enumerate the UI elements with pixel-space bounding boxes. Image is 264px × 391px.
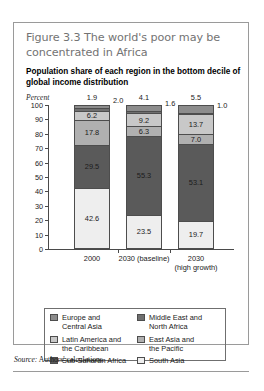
stacked-bar: 42.629.517.86.22.01.91.92.0 [74,105,110,249]
bar-segment: 5.5 [178,105,214,113]
bar-segment-value-label: 23.5 [137,228,151,235]
bar-top-value-label: 1.9 [87,93,97,102]
bar-top-value-label: 4.1 [139,93,149,102]
legend-item[interactable]: East Asia and the Pacific [137,335,225,353]
stacked-bar: 23.555.36.39.21.64.14.11.6 [126,105,162,249]
bar-segment: 9.2 [126,113,162,126]
legend-item-label: East Asia and the Pacific [149,335,194,353]
legend-item[interactable]: Middle East and North Africa [137,313,225,331]
bar-segment-value-label: 7.0 [191,136,201,143]
y-axis-tick-label: 30 [35,201,43,210]
source-text: Authors' calculations. [37,355,104,364]
bar-callout-value-label: 2.0 [113,96,123,105]
y-axis-tick-mark [45,163,49,164]
x-axis-tick-mark [118,249,119,253]
figure-title: Figure 3.3 The world's poor may be conce… [26,31,240,60]
legend-item[interactable]: Europe and Central Asia [50,313,138,331]
y-axis-tick-mark [45,119,49,120]
x-axis-category-label: 2030 (high growth) [156,254,236,273]
y-axis-tick-mark [45,134,49,135]
legend-item-label: Latin America and the Caribbean [62,335,121,353]
bar-segment: 7.0 [178,134,214,144]
y-axis-tick-label: 10 [35,230,43,239]
bar-segment: 1.6 [126,111,162,113]
bar-segment: 1.9 [74,105,110,108]
legend-color-swatch [137,336,145,343]
y-axis-tick-label: 80 [35,129,43,138]
bar-segment: 29.5 [74,145,110,187]
source-note: Source: Authors' calculations. [14,355,105,364]
bar-segment: 19.7 [178,221,214,249]
source-divider [13,371,249,372]
source-label: Source: [14,355,37,364]
y-axis-tick-label: 40 [35,187,43,196]
y-axis-tick-mark [45,191,49,192]
chart-axes: 1009080706050403020100 42.629.517.86.22.… [48,105,234,249]
bar-segment-value-label: 17.8 [85,129,99,136]
bar-segment-value-label: 19.7 [189,231,203,238]
bar-callout-value-label: 1.6 [165,99,175,108]
bar-top-value-label: 5.5 [191,93,201,102]
y-axis-tick-mark [45,148,49,149]
bar-segment-value-label: 9.2 [139,117,149,124]
bar-segment-value-label: 42.6 [85,215,99,222]
y-axis-tick-label: 60 [35,158,43,167]
legend-item-label: Middle East and North Africa [149,313,202,331]
y-axis-tick-mark [45,235,49,236]
x-axis-tick-mark [170,249,171,253]
y-axis-tick-label: 20 [35,216,43,225]
bar-segment: 6.3 [126,126,162,135]
bar-segment: 1.0 [178,113,214,114]
legend-item-label: South Asia [149,356,184,365]
legend-item-label: Europe and Central Asia [62,313,102,331]
bar-segment-value-label: 6.2 [87,112,97,119]
legend-item[interactable]: South Asia [137,356,225,365]
bar-segment: 55.3 [126,136,162,216]
x-axis-line [48,249,234,250]
legend-color-swatch [50,314,58,321]
legend-item[interactable]: Latin America and the Caribbean [50,335,138,353]
chart-plot-area: Percent 1009080706050403020100 42.629.51… [26,93,240,278]
bar-segment-value-label: 13.7 [189,121,203,128]
legend-color-swatch [50,336,58,343]
y-axis-tick-label: 50 [35,173,43,182]
bar-segment: 4.1 [126,105,162,111]
y-axis-tick-mark [45,105,49,106]
bar-segment: 6.2 [74,111,110,120]
y-axis-tick-mark [45,177,49,178]
bar-segment-value-label: 55.3 [137,172,151,179]
legend-color-swatch [137,314,145,321]
bar-segment: 2.0 [74,108,110,111]
bar-segment-value-label: 53.1 [189,179,203,186]
bar-segment: 42.6 [74,188,110,249]
y-axis-tick-label: 0 [39,245,43,254]
bar-callout-value-label: 1.0 [217,100,227,109]
bar-segment: 53.1 [178,144,214,220]
stacked-bar: 19.753.17.013.71.05.55.51.0 [178,105,214,249]
bar-segment: 23.5 [126,215,162,249]
y-axis-tick-mark [45,220,49,221]
bar-segment-value-label: 6.3 [139,128,149,135]
legend-column-right: Middle East and North AfricaEast Asia an… [137,313,225,369]
y-axis-tick-label: 90 [35,115,43,124]
chart-legend: Europe and Central AsiaLatin America and… [44,308,226,361]
bar-segment-value-label: 29.5 [85,163,99,170]
figure-card: Figure 3.3 The world's poor may be conce… [13,22,249,345]
figure-subtitle: Population share of each region in the b… [26,67,242,88]
legend-color-swatch [137,357,145,364]
y-axis-tick-label: 70 [35,144,43,153]
y-axis-tick-label: 100 [31,101,43,110]
bar-segment: 13.7 [178,114,214,134]
bar-segment: 17.8 [74,120,110,146]
y-axis-tick-mark [45,249,49,250]
y-axis-tick-mark [45,206,49,207]
